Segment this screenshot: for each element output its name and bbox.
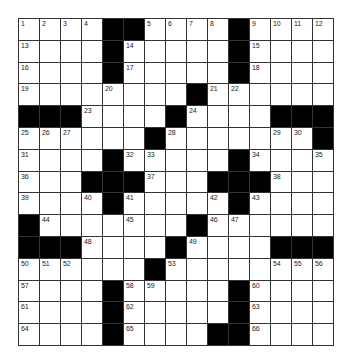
crossword-cell[interactable] — [208, 150, 228, 171]
crossword-cell[interactable] — [187, 172, 207, 193]
crossword-cell[interactable] — [61, 281, 81, 302]
crossword-cell[interactable] — [292, 302, 312, 323]
crossword-cell[interactable]: 48 — [82, 237, 102, 258]
crossword-cell[interactable]: 45 — [124, 215, 144, 236]
crossword-cell[interactable]: 60 — [250, 281, 270, 302]
crossword-cell[interactable] — [145, 324, 165, 345]
crossword-cell[interactable] — [313, 215, 333, 236]
crossword-cell[interactable] — [292, 172, 312, 193]
crossword-cell[interactable] — [124, 128, 144, 149]
crossword-cell[interactable] — [124, 237, 144, 258]
crossword-cell[interactable] — [40, 193, 60, 214]
crossword-cell[interactable] — [208, 302, 228, 323]
crossword-cell[interactable] — [145, 41, 165, 62]
crossword-cell[interactable] — [292, 41, 312, 62]
crossword-cell[interactable] — [103, 259, 123, 280]
crossword-cell[interactable] — [271, 150, 291, 171]
crossword-cell[interactable]: 9 — [250, 19, 270, 40]
crossword-cell[interactable] — [103, 237, 123, 258]
crossword-cell[interactable]: 38 — [271, 172, 291, 193]
crossword-cell[interactable] — [40, 324, 60, 345]
crossword-cell[interactable]: 28 — [166, 128, 186, 149]
crossword-cell[interactable]: 2 — [40, 19, 60, 40]
crossword-cell[interactable]: 33 — [145, 150, 165, 171]
crossword-cell[interactable] — [313, 41, 333, 62]
crossword-cell[interactable] — [250, 128, 270, 149]
crossword-cell[interactable]: 53 — [166, 259, 186, 280]
crossword-cell[interactable] — [271, 324, 291, 345]
crossword-cell[interactable]: 63 — [250, 302, 270, 323]
crossword-cell[interactable] — [145, 84, 165, 105]
crossword-cell[interactable]: 16 — [19, 63, 39, 84]
crossword-cell[interactable]: 13 — [19, 41, 39, 62]
crossword-cell[interactable] — [292, 150, 312, 171]
crossword-cell[interactable] — [40, 41, 60, 62]
crossword-cell[interactable]: 24 — [187, 106, 207, 127]
crossword-cell[interactable]: 20 — [103, 84, 123, 105]
crossword-cell[interactable] — [40, 150, 60, 171]
crossword-cell[interactable] — [124, 259, 144, 280]
crossword-cell[interactable]: 11 — [292, 19, 312, 40]
crossword-cell[interactable] — [61, 324, 81, 345]
crossword-cell[interactable] — [292, 84, 312, 105]
crossword-cell[interactable]: 41 — [124, 193, 144, 214]
crossword-cell[interactable] — [166, 215, 186, 236]
crossword-cell[interactable] — [103, 128, 123, 149]
crossword-cell[interactable] — [271, 281, 291, 302]
crossword-cell[interactable]: 19 — [19, 84, 39, 105]
crossword-cell[interactable] — [103, 215, 123, 236]
crossword-cell[interactable]: 23 — [82, 106, 102, 127]
crossword-cell[interactable]: 46 — [208, 215, 228, 236]
crossword-cell[interactable] — [124, 106, 144, 127]
crossword-cell[interactable]: 62 — [124, 302, 144, 323]
crossword-cell[interactable] — [40, 302, 60, 323]
crossword-cell[interactable] — [124, 84, 144, 105]
crossword-cell[interactable] — [187, 193, 207, 214]
crossword-cell[interactable]: 54 — [271, 259, 291, 280]
crossword-cell[interactable]: 56 — [313, 259, 333, 280]
crossword-cell[interactable] — [82, 63, 102, 84]
crossword-cell[interactable] — [61, 150, 81, 171]
crossword-cell[interactable] — [208, 106, 228, 127]
crossword-cell[interactable] — [250, 106, 270, 127]
crossword-cell[interactable] — [145, 237, 165, 258]
crossword-cell[interactable] — [229, 259, 249, 280]
crossword-cell[interactable] — [292, 193, 312, 214]
crossword-cell[interactable] — [82, 302, 102, 323]
crossword-cell[interactable]: 61 — [19, 302, 39, 323]
crossword-cell[interactable] — [208, 128, 228, 149]
crossword-cell[interactable]: 4 — [82, 19, 102, 40]
crossword-cell[interactable] — [61, 215, 81, 236]
crossword-cell[interactable]: 17 — [124, 63, 144, 84]
crossword-cell[interactable]: 65 — [124, 324, 144, 345]
crossword-cell[interactable] — [82, 324, 102, 345]
crossword-cell[interactable]: 66 — [250, 324, 270, 345]
crossword-cell[interactable] — [187, 281, 207, 302]
crossword-cell[interactable]: 14 — [124, 41, 144, 62]
crossword-cell[interactable] — [82, 215, 102, 236]
crossword-cell[interactable]: 25 — [19, 128, 39, 149]
crossword-cell[interactable]: 31 — [19, 150, 39, 171]
crossword-cell[interactable] — [271, 41, 291, 62]
crossword-cell[interactable] — [166, 193, 186, 214]
crossword-cell[interactable] — [82, 84, 102, 105]
crossword-cell[interactable] — [166, 150, 186, 171]
crossword-cell[interactable] — [166, 41, 186, 62]
crossword-cell[interactable] — [82, 41, 102, 62]
crossword-cell[interactable]: 3 — [61, 19, 81, 40]
crossword-cell[interactable] — [40, 63, 60, 84]
crossword-cell[interactable] — [271, 302, 291, 323]
crossword-cell[interactable] — [61, 41, 81, 62]
crossword-cell[interactable]: 21 — [208, 84, 228, 105]
crossword-cell[interactable]: 5 — [145, 19, 165, 40]
crossword-cell[interactable]: 50 — [19, 259, 39, 280]
crossword-cell[interactable] — [250, 215, 270, 236]
crossword-cell[interactable] — [292, 63, 312, 84]
crossword-cell[interactable]: 49 — [187, 237, 207, 258]
crossword-cell[interactable]: 7 — [187, 19, 207, 40]
crossword-cell[interactable]: 64 — [19, 324, 39, 345]
crossword-cell[interactable]: 22 — [229, 84, 249, 105]
crossword-cell[interactable] — [313, 84, 333, 105]
crossword-cell[interactable] — [313, 324, 333, 345]
crossword-cell[interactable]: 35 — [313, 150, 333, 171]
